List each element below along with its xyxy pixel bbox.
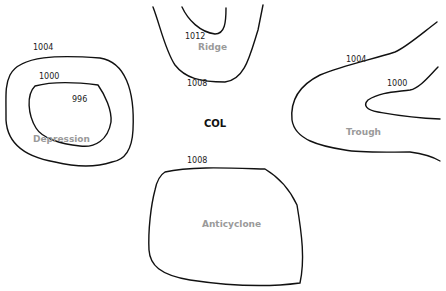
isobar-label-1000-trough: 1000 [387, 80, 407, 88]
isobar-label-1000-depression: 1000 [39, 73, 59, 81]
isobar-label-1008-ridge: 1008 [187, 80, 207, 88]
isobar-label-1008-anticyclone: 1008 [187, 157, 207, 165]
ridge-isobar-1012 [182, 7, 226, 34]
isobar-label-1004-trough: 1004 [346, 56, 366, 64]
isobar-label-1012: 1012 [185, 33, 205, 41]
isobar-label-1004-depression: 1004 [33, 44, 53, 52]
ridge-label: Ridge [198, 43, 227, 52]
trough-isobar-1004 [292, 22, 440, 161]
trough-label: Trough [346, 128, 381, 137]
isobar-label-996: 996 [72, 96, 87, 104]
trough-isobar-1000 [366, 67, 440, 119]
depression-label: Depression [33, 135, 90, 144]
depression-isobar-1004 [6, 57, 133, 166]
anticyclone-label: Anticyclone [202, 220, 261, 229]
col-label: COL [204, 119, 226, 129]
pressure-systems-diagram: 1004 1000 996 Depression 1012 Ridge 1008… [0, 0, 446, 291]
